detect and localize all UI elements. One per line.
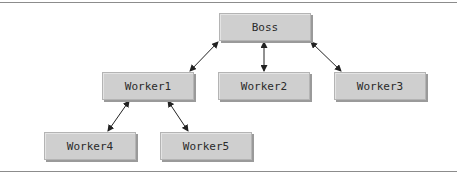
node-worker4: Worker4: [44, 132, 136, 160]
node-worker1: Worker1: [102, 72, 194, 100]
node-label: Worker4: [67, 140, 113, 153]
node-boss: Boss: [219, 13, 311, 41]
node-worker2: Worker2: [218, 72, 310, 100]
node-worker3: Worker3: [334, 72, 426, 100]
node-label: Boss: [252, 21, 279, 34]
arrow-worker1-worker4: [108, 101, 129, 131]
node-label: Worker1: [125, 80, 171, 93]
arrow-boss-worker1: [190, 42, 218, 71]
node-worker5: Worker5: [160, 132, 252, 160]
node-label: Worker3: [357, 80, 403, 93]
node-label: Worker5: [183, 140, 229, 153]
arrow-worker1-worker5: [168, 101, 188, 131]
node-label: Worker2: [241, 80, 287, 93]
arrow-boss-worker3: [311, 42, 341, 71]
